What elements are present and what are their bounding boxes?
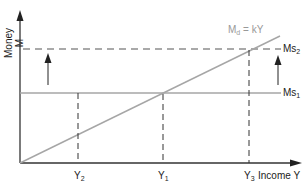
y2-sub: 2	[81, 175, 85, 182]
x-tick-y3: Y3	[244, 170, 255, 182]
x-tick-y1: Y1	[158, 170, 169, 182]
md-rest: = kY	[240, 24, 263, 35]
x-tick-y2: Y2	[74, 170, 85, 182]
y-axis-arrow-icon	[17, 10, 24, 21]
x-axis-label: Income Y	[258, 170, 300, 181]
y3-main: Y	[244, 170, 251, 181]
y2-main: Y	[74, 170, 81, 181]
money-demand-line	[20, 36, 280, 163]
x-axis-arrow-icon	[290, 160, 302, 167]
ms1-label: Ms1	[283, 87, 300, 99]
ms2-label: Ms2	[283, 43, 300, 55]
ms1-sub: 1	[296, 92, 300, 99]
ms2-main: Ms	[283, 43, 296, 54]
y-axis-label: Money M	[3, 23, 25, 63]
y3-sub: 3	[251, 175, 255, 182]
right-shift-arrow-head-icon	[275, 55, 282, 65]
ms1-main: Ms	[283, 87, 296, 98]
ms2-sub: 2	[296, 48, 300, 55]
y1-main: Y	[158, 170, 165, 181]
money-demand-label: Md = kY	[228, 24, 263, 36]
left-shift-arrow-head-icon	[45, 53, 52, 63]
y1-sub: 1	[165, 175, 169, 182]
